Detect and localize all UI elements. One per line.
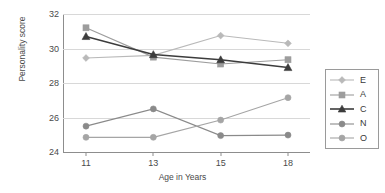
legend-item-e[interactable]: E	[326, 73, 378, 88]
data-point	[285, 95, 291, 101]
x-axis-tick-mark	[153, 152, 154, 156]
data-point	[150, 134, 156, 140]
legend-label: A	[360, 90, 366, 99]
legend-label: E	[360, 76, 366, 85]
legend-swatch-triangle-icon	[329, 103, 355, 115]
legend-item-o[interactable]: O	[326, 131, 378, 146]
legend: EACNO	[325, 69, 379, 149]
data-point	[217, 32, 224, 39]
plot-area: 2426283032 11131518	[63, 14, 310, 152]
personality-score-line-chart: Personality score Age in Years 242628303…	[0, 0, 385, 193]
legend-swatch-circle-icon	[329, 118, 355, 130]
series-o	[83, 95, 291, 141]
legend-label: C	[360, 105, 367, 114]
x-axis-tick-mark	[86, 152, 87, 156]
x-axis-line	[63, 152, 310, 153]
series-n	[83, 106, 291, 139]
legend-label: O	[360, 134, 367, 143]
x-axis-tick-label: 11	[81, 158, 90, 168]
y-axis-tick-label: 24	[49, 147, 59, 157]
data-point	[83, 134, 89, 140]
data-point	[285, 132, 291, 138]
data-point	[83, 55, 90, 62]
data-point	[150, 106, 156, 112]
x-axis-tick-label: 13	[148, 158, 158, 168]
legend-item-n[interactable]: N	[326, 117, 378, 132]
data-point	[82, 33, 90, 40]
x-axis-tick-mark	[288, 152, 289, 156]
y-axis-tick-label: 32	[49, 9, 59, 19]
y-axis-tick-label: 26	[49, 113, 59, 123]
data-point	[83, 123, 89, 129]
legend-label: N	[360, 119, 367, 128]
series-layer	[63, 14, 310, 152]
x-axis-tick-mark	[220, 152, 221, 156]
data-point	[218, 133, 224, 139]
series-line	[86, 109, 288, 136]
x-axis-title: Age in Years	[55, 172, 310, 182]
x-axis-tick-label: 15	[216, 158, 226, 168]
series-line	[86, 36, 288, 58]
y-axis-tick-label: 28	[49, 78, 59, 88]
x-axis-tick-label: 18	[283, 158, 293, 168]
legend-swatch-diamond-icon	[329, 74, 355, 86]
data-point	[83, 25, 89, 31]
legend-item-a[interactable]: A	[326, 88, 378, 103]
legend-swatch-circle-icon	[329, 132, 355, 144]
data-point	[218, 117, 224, 123]
y-axis-tick-label: 30	[49, 44, 59, 54]
series-c	[82, 33, 292, 71]
data-point	[285, 57, 291, 63]
legend-item-c[interactable]: C	[326, 102, 378, 117]
y-axis-title: Personality score	[17, 0, 27, 109]
legend-swatch-square-icon	[329, 89, 355, 101]
series-line	[86, 98, 288, 138]
data-point	[285, 40, 292, 47]
